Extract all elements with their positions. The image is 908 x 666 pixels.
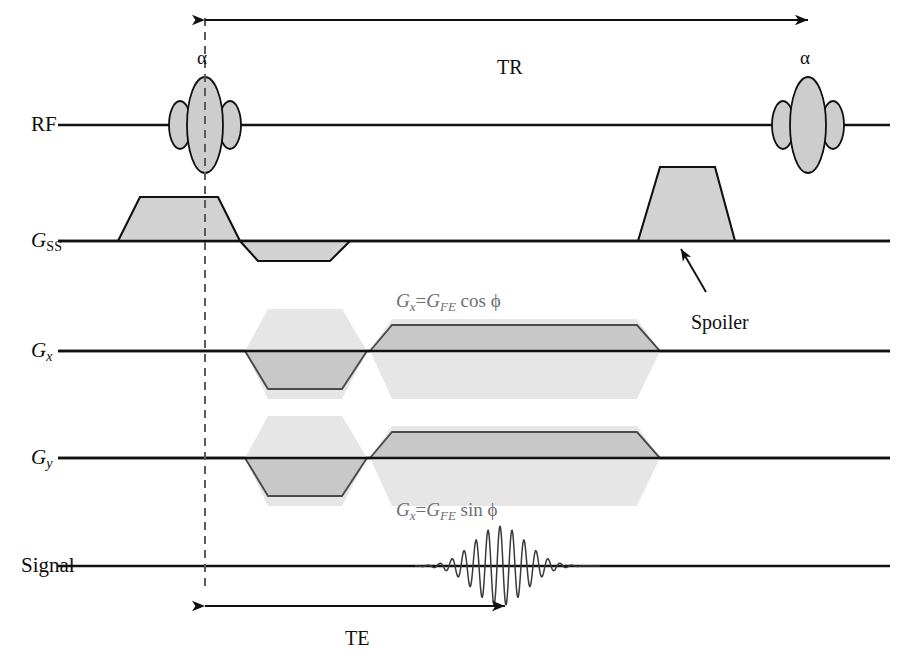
- gx-readout-formula: Gx=GFE cos ϕ: [396, 291, 501, 313]
- gx-symbol: G: [31, 338, 46, 362]
- row-label-gy: Gy: [31, 447, 53, 471]
- row-label-gss: GSS: [31, 230, 62, 254]
- gy-formula-rhs-subscript: FE: [440, 508, 456, 523]
- slice-select-lobe: [118, 197, 240, 241]
- gss-waveform: [118, 167, 735, 261]
- pulse-sequence-figure: RF GSS Gx Gy Signal TR TE α α Spoiler Gx…: [0, 0, 908, 666]
- pulse-sequence-canvas: [0, 0, 908, 666]
- gx-subscript: x: [46, 349, 52, 364]
- gy-readout-formula: Gx=GFE sin ϕ: [396, 500, 498, 522]
- gx-formula-rhs-symbol: G: [426, 290, 440, 311]
- gx-formula-lhs-symbol: G: [396, 290, 410, 311]
- flip-angle-label-1: α: [197, 48, 207, 67]
- gx-formula-angle: ϕ: [491, 290, 501, 311]
- row-label-rf: RF: [31, 114, 57, 135]
- gx-formula-equals: =: [416, 290, 427, 311]
- flip-angle-label-2: α: [800, 48, 810, 67]
- gx-formula-trig: cos: [461, 290, 486, 311]
- spoiler-label: Spoiler: [691, 312, 749, 332]
- gy-formula-trig: sin: [461, 499, 483, 520]
- gy-formula-equals: =: [416, 499, 427, 520]
- gy-readout-lobe: [370, 432, 660, 458]
- gx-readout-lobe: [370, 325, 660, 351]
- row-label-signal: Signal: [21, 555, 75, 576]
- spoiler-lobe: [638, 167, 735, 241]
- gy-formula-angle: ϕ: [488, 499, 498, 520]
- spoiler-leader-line: [681, 249, 706, 292]
- spoiler-annotation: [681, 249, 706, 292]
- tr-label: TR: [497, 57, 523, 77]
- gy-formula-lhs-symbol: G: [396, 499, 410, 520]
- rf-main-lobe: [790, 77, 826, 173]
- gy-subscript: y: [46, 456, 52, 471]
- te-label: TE: [345, 628, 369, 648]
- gy-formula-rhs-symbol: G: [426, 499, 440, 520]
- rf-pulse-excitation-2: [772, 77, 844, 173]
- gx-formula-rhs-subscript: FE: [440, 299, 456, 314]
- gss-subscript: SS: [46, 239, 62, 254]
- gy-symbol: G: [31, 445, 46, 469]
- row-label-gx: Gx: [31, 340, 53, 364]
- gss-symbol: G: [31, 228, 46, 252]
- slice-rephase-lobe: [240, 241, 350, 261]
